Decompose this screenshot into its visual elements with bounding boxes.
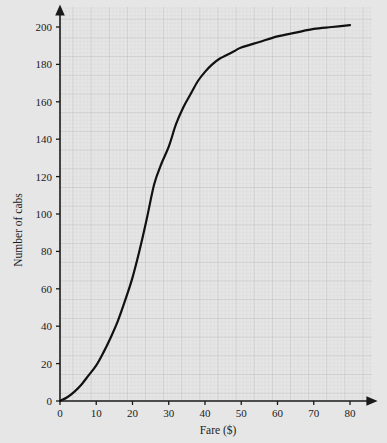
- cumulative-frequency-chart: 0 20 40 60 80 100 120 140 160 180 200 Nu…: [0, 0, 387, 443]
- x-tick-label-70: 70: [308, 407, 320, 419]
- y-tick-label-20: 20: [41, 358, 53, 370]
- y-tick-label-140: 140: [36, 133, 53, 145]
- chart-page: 0 20 40 60 80 100 120 140 160 180 200 Nu…: [0, 0, 387, 443]
- y-tick-label-200: 200: [36, 21, 53, 33]
- y-tick-label-80: 80: [41, 245, 53, 257]
- x-tick-label-0: 0: [57, 407, 63, 419]
- x-tick-label-20: 20: [127, 407, 139, 419]
- x-tick-label-50: 50: [236, 407, 248, 419]
- x-tick-label-60: 60: [272, 407, 284, 419]
- x-tick-label-30: 30: [163, 407, 175, 419]
- x-tick-label-10: 10: [91, 407, 103, 419]
- x-axis-title: Fare ($): [200, 424, 237, 437]
- x-tick-label-40: 40: [200, 407, 212, 419]
- y-tick-label-60: 60: [41, 283, 53, 295]
- y-tick-label-120: 120: [36, 171, 53, 183]
- x-tick-label-80: 80: [345, 407, 357, 419]
- y-tick-label-160: 160: [36, 96, 53, 108]
- y-tick-label-100: 100: [36, 208, 53, 220]
- graph-paper-grid: [60, 7, 372, 401]
- y-tick-label-40: 40: [41, 320, 53, 332]
- y-axis-title: Number of cabs: [12, 193, 24, 267]
- y-tick-label-0: 0: [47, 395, 53, 407]
- y-tick-label-180: 180: [36, 58, 53, 70]
